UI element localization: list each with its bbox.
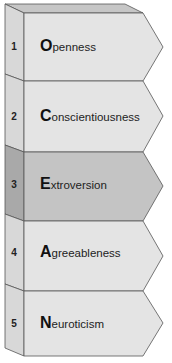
row-initial: N — [40, 314, 52, 331]
row-label-agreeableness: Agreeableness — [40, 243, 121, 261]
top-face — [5, 4, 143, 13]
row-number-3: 3 — [8, 179, 20, 190]
row-label-neuroticism: Neuroticism — [40, 314, 104, 332]
row-initial: O — [40, 37, 52, 54]
row-number-2: 2 — [8, 111, 20, 122]
row-rest: greeableness — [52, 247, 121, 259]
row-rest: xtroversion — [51, 179, 107, 191]
row-label-extroversion: Extroversion — [40, 175, 107, 193]
row-label-openness: Openness — [40, 37, 96, 55]
row-initial: C — [40, 107, 52, 124]
row-number-1: 1 — [8, 41, 20, 52]
row-number-4: 4 — [8, 247, 20, 258]
row-initial: A — [40, 243, 52, 260]
row-label-conscientiousness: Conscientiousness — [40, 107, 140, 125]
row-rest: penness — [52, 41, 95, 53]
row-number-5: 5 — [8, 318, 20, 329]
row-rest: onscientiousness — [52, 111, 140, 123]
row-rest: euroticism — [52, 318, 104, 330]
row-initial: E — [40, 175, 51, 192]
